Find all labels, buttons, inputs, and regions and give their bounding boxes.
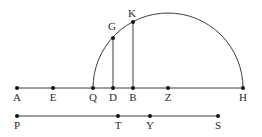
label-S: S: [215, 119, 221, 131]
label-E: E: [50, 91, 57, 103]
label-H: H: [239, 91, 247, 103]
point-Q: [91, 86, 95, 90]
point-D: [111, 86, 115, 90]
label-B: B: [129, 91, 136, 103]
label-K: K: [128, 7, 136, 19]
point-H: [241, 86, 245, 90]
label-Z: Z: [165, 91, 172, 103]
point-K: [131, 20, 135, 24]
label-Y: Y: [146, 119, 154, 131]
point-E: [51, 86, 55, 90]
point-Y: [148, 114, 152, 118]
point-Z: [166, 86, 170, 90]
label-Q: Q: [89, 91, 97, 103]
point-T: [116, 114, 120, 118]
point-P: [15, 114, 19, 118]
label-G: G: [108, 20, 116, 32]
point-A: [15, 86, 19, 90]
label-D: D: [109, 91, 117, 103]
label-A: A: [13, 91, 21, 103]
point-G: [111, 36, 115, 40]
figure-svg: AEQDBZHGKPTYS: [0, 0, 262, 137]
label-T: T: [115, 119, 122, 131]
label-P: P: [14, 119, 20, 131]
point-S: [216, 114, 220, 118]
geometry-figure: AEQDBZHGKPTYS: [0, 0, 262, 137]
point-B: [131, 86, 135, 90]
